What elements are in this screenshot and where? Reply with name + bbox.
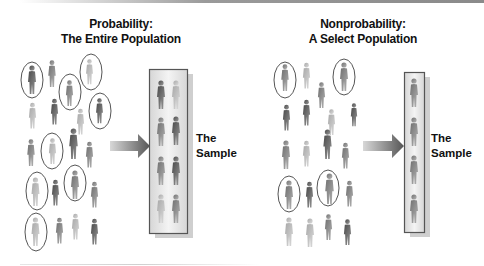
title-line-2: A Select Population [242, 32, 484, 47]
sample-label-line-2: Sample [431, 146, 472, 161]
sample-label: The Sample [196, 131, 237, 161]
probability-title: Probability: The Entire Population [0, 17, 242, 47]
title-line-1: Nonprobability: [242, 17, 484, 32]
sample-label-line-1: The [196, 131, 237, 146]
title-line-1: Probability: [0, 17, 242, 32]
nonprobability-title: Nonprobability: A Select Population [242, 17, 484, 47]
sample-label-line-1: The [431, 131, 472, 146]
nonprobability-panel: Nonprobability: A Select Population The … [242, 0, 484, 266]
sample-label-line-2: Sample [196, 146, 237, 161]
probability-panel: Probability: The Entire Population The S… [0, 0, 242, 266]
title-line-2: The Entire Population [0, 32, 242, 47]
sample-label: The Sample [431, 131, 472, 161]
